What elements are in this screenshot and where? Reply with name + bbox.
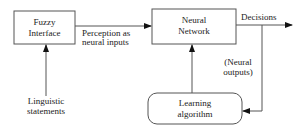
decisions-label: Decisions xyxy=(241,12,277,22)
fuzzy-interface-label-2: Interface xyxy=(29,28,61,38)
neural-outputs-label-1: (Neural xyxy=(224,57,252,67)
neural-network-label-1: Neural xyxy=(182,15,207,25)
diagram-canvas: Fuzzy Interface Neural Network Learning … xyxy=(0,0,300,128)
fuzzy-interface-label-1: Fuzzy xyxy=(34,17,56,27)
learning-algorithm-label-2: algorithm xyxy=(178,109,213,119)
neural-network-node: Neural Network xyxy=(152,9,236,44)
learning-algorithm-label-1: Learning xyxy=(179,98,212,108)
linguistic-label-2: statements xyxy=(27,106,65,116)
neural-outputs-label-2: outputs) xyxy=(223,67,253,77)
linguistic-label-1: Linguistic xyxy=(28,96,65,106)
perception-label-2: neural inputs xyxy=(82,37,129,47)
neural-network-label-2: Network xyxy=(178,26,210,36)
learning-algorithm-node: Learning algorithm xyxy=(148,93,242,124)
fuzzy-interface-node: Fuzzy Interface xyxy=(14,11,75,44)
